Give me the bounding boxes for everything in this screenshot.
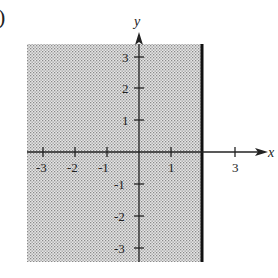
x-tick-label: -1 [98, 160, 109, 175]
y-tick-label: 1 [122, 113, 129, 128]
x-tick-label: -2 [67, 160, 78, 175]
y-tick-label: -1 [114, 177, 125, 192]
y-tick-label: -2 [114, 209, 125, 224]
y-tick-label: 3 [122, 50, 129, 65]
shaded-region [27, 44, 202, 262]
x-axis-label: x [267, 145, 275, 160]
x-tick-label: 3 [232, 160, 239, 175]
x-tick-label: 1 [168, 160, 175, 175]
y-axis-arrow-icon [135, 32, 143, 45]
x-tick-label: -3 [36, 160, 47, 175]
inequality-graph: ) x y -3 -2 -1 1 3 3 2 1 -1 -2 -3 [0, 0, 278, 278]
y-tick-label: 2 [122, 81, 129, 96]
y-tick-label: -3 [114, 241, 125, 256]
part-label: ) [0, 4, 5, 29]
y-axis-label: y [132, 14, 141, 29]
